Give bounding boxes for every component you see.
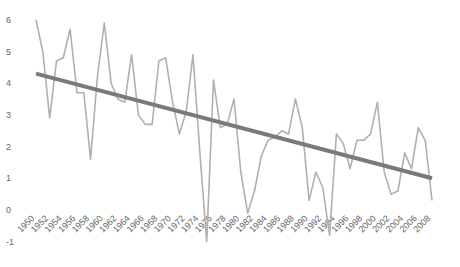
x-axis: 1950195219541956195819601962196419661968… xyxy=(15,213,432,234)
y-tick-label: -1 xyxy=(6,237,14,247)
y-tick-label: 6 xyxy=(6,15,11,25)
y-tick-label: 5 xyxy=(6,47,11,57)
line-chart: 6543210-1 195019521954195619581960196219… xyxy=(0,0,460,267)
y-tick-label: 1 xyxy=(6,173,11,183)
y-axis: 6543210-1 xyxy=(6,15,14,247)
y-tick-label: 0 xyxy=(6,205,11,215)
data-series-line xyxy=(36,20,432,242)
y-tick-label: 4 xyxy=(6,78,11,88)
y-tick-label: 3 xyxy=(6,110,11,120)
y-tick-label: 2 xyxy=(6,142,11,152)
